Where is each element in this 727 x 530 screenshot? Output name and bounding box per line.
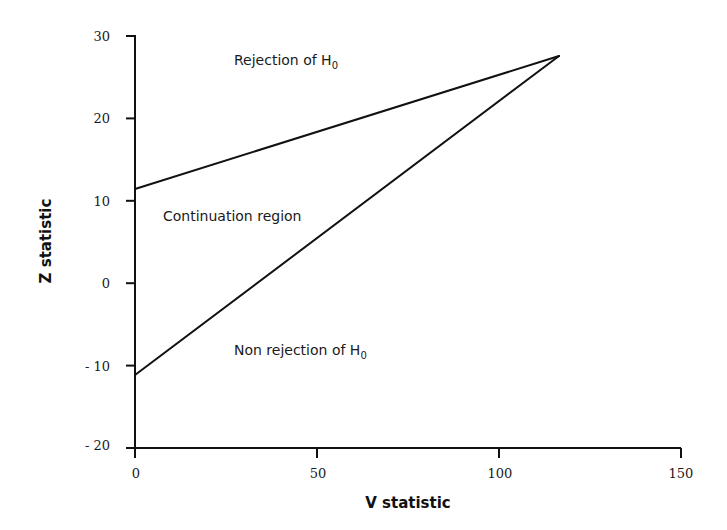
x-tick-label: 100 — [488, 466, 513, 481]
x-ticks — [135, 448, 681, 458]
triangular-test-chart: 30 20 10 0 - 10 - 20 0 50 100 150 V stat… — [0, 0, 727, 530]
y-tick-label: 20 — [93, 111, 110, 126]
x-tick-label: 50 — [310, 466, 327, 481]
non-rejection-region-label: Non rejection of H0 — [234, 342, 367, 361]
x-tick-label: 150 — [669, 466, 694, 481]
y-tick-label: - 20 — [85, 438, 110, 453]
y-axis-title: Z statistic — [37, 199, 55, 284]
x-tick-labels: 0 50 100 150 — [132, 466, 694, 481]
x-axis-title: V statistic — [365, 494, 451, 512]
y-tick-label: 10 — [93, 194, 110, 209]
continuation-region-label: Continuation region — [163, 208, 301, 224]
x-tick-label: 0 — [132, 466, 140, 481]
y-tick-label: 30 — [93, 29, 110, 44]
upper-boundary-line — [135, 56, 559, 189]
y-tick-label: - 10 — [85, 359, 110, 374]
y-tick-label: 0 — [102, 276, 110, 291]
y-tick-labels: 30 20 10 0 - 10 - 20 — [85, 29, 110, 453]
rejection-region-label: Rejection of H0 — [234, 52, 338, 71]
